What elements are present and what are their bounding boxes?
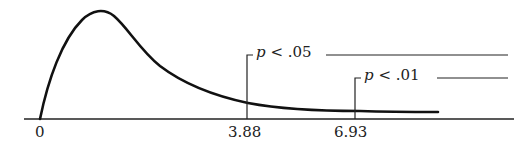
critical-label-05: p < .05 [256, 45, 312, 60]
critical-marker-01 [355, 78, 361, 119]
critical-marker-05 [247, 55, 253, 119]
critical-label-01: p < .01 [364, 68, 420, 83]
p-symbol: p [256, 43, 266, 61]
threshold-text: < .05 [266, 43, 312, 61]
p-symbol: p [364, 66, 374, 84]
threshold-text: < .01 [374, 66, 420, 84]
tick-label-6-93: 6.93 [334, 125, 367, 140]
tick-label-3-88: 3.88 [228, 125, 261, 140]
tick-label-0: 0 [35, 125, 45, 140]
f-distribution-diagram [0, 0, 531, 148]
